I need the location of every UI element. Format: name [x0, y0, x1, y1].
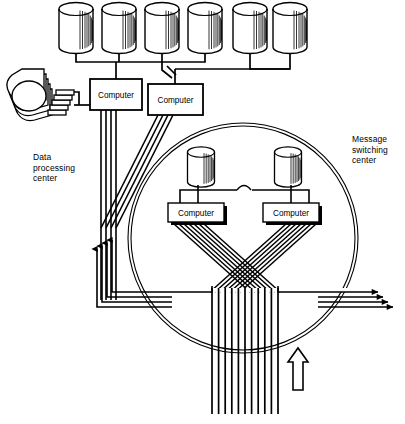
dp-disk-row: [59, 3, 307, 54]
dp-computer-left-label: Computer: [98, 91, 134, 100]
msc-computer-right[interactable]: Computer: [263, 203, 322, 225]
data-processing-center-label: Data processing center: [33, 152, 75, 184]
msc-cable-crossing: [174, 224, 316, 292]
outgoing-lines-right: [318, 292, 393, 307]
dp-computer-right-label: Computer: [158, 96, 194, 105]
disk-5: [233, 3, 267, 54]
msc-disk-right: [275, 147, 302, 187]
diagram-canvas: Computer Computer: [0, 0, 405, 424]
disk-2: [102, 3, 136, 54]
disk-6: [273, 3, 307, 54]
return-lines-left: [97, 240, 172, 307]
msc-computer-right-label: Computer: [273, 209, 309, 218]
msc-computer-left-label: Computer: [178, 209, 214, 218]
disk-4: [188, 3, 222, 54]
msc-computer-left[interactable]: Computer: [168, 203, 227, 225]
dp-computer-left[interactable]: Computer: [90, 79, 142, 110]
disk-3: [145, 3, 179, 54]
msc-disk-left: [188, 147, 215, 187]
incoming-arrow-up: [288, 348, 308, 390]
message-switching-center-label: Message switching center: [352, 134, 388, 166]
terminal-stack: [7, 69, 90, 121]
msc-boundary-circle: [128, 123, 358, 353]
disk-1: [59, 3, 93, 54]
network-diagram-svg: Computer Computer: [0, 0, 405, 424]
dp-computer-right[interactable]: Computer: [148, 84, 203, 115]
